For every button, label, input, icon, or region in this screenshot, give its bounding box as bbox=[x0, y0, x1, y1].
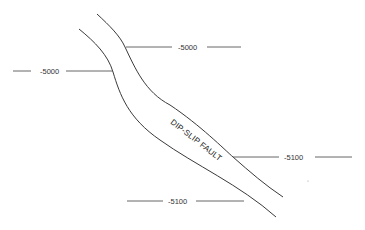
fault-diagram: -5000 -5000 -5100 -5100 DIP-SLIP FAULT bbox=[0, 0, 365, 230]
contour-label-top-5000: -5000 bbox=[178, 43, 197, 52]
speck bbox=[307, 180, 308, 181]
contour-label-left-5000: -5000 bbox=[40, 67, 59, 76]
contour-label-bottom-5100: -5100 bbox=[168, 197, 187, 206]
fault-hangingwall-trace bbox=[97, 14, 283, 197]
contour-label-right-5100: -5100 bbox=[284, 153, 303, 162]
